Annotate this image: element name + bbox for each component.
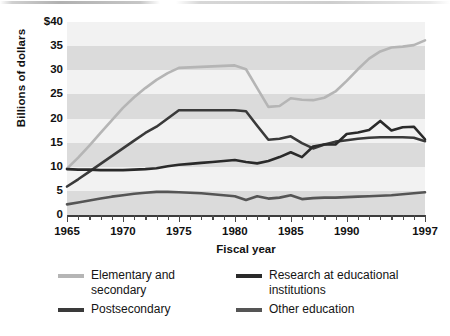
x-axis-tick xyxy=(358,215,359,220)
x-axis-tick xyxy=(134,215,135,220)
y-axis-tick-label: 10 xyxy=(27,161,63,172)
series-line xyxy=(67,110,425,186)
x-axis-tick xyxy=(224,215,225,220)
x-axis-tick-label: 1975 xyxy=(149,225,209,237)
x-axis-tick xyxy=(145,215,146,220)
x-axis-tick xyxy=(414,215,415,220)
legend-item[interactable]: Postsecondary xyxy=(58,302,170,317)
series-line xyxy=(67,121,425,170)
x-axis-ticks xyxy=(67,215,425,223)
plot-lines xyxy=(67,22,425,215)
x-axis-tick xyxy=(313,215,314,220)
y-axis-tick-label: 35 xyxy=(27,40,63,51)
x-axis-tick xyxy=(369,215,370,220)
legend-label: Research at educational institutions xyxy=(269,268,398,297)
y-axis-tick-labels: $4035302520151050 xyxy=(23,22,63,215)
x-axis-tick xyxy=(201,215,202,220)
y-axis-tick-label: 0 xyxy=(27,209,63,220)
x-axis-tick xyxy=(190,215,191,220)
x-axis-tick xyxy=(302,215,303,220)
y-axis-tick-label: 25 xyxy=(27,88,63,99)
legend-line-swatch xyxy=(58,274,84,278)
x-axis-tick-label: 1965 xyxy=(37,225,97,237)
legend-label: Postsecondary xyxy=(91,302,170,317)
x-axis-tick-label: 1985 xyxy=(261,225,321,237)
x-axis-tick xyxy=(268,215,269,220)
legend-line-swatch xyxy=(236,308,262,312)
y-axis-tick-label: $40 xyxy=(27,16,63,27)
x-axis-tick-label: 1980 xyxy=(205,225,265,237)
x-axis-tick xyxy=(212,215,213,220)
legend-line-swatch xyxy=(58,308,84,312)
y-axis-tick-label: 20 xyxy=(27,113,63,124)
legend-item[interactable]: Elementary and secondary xyxy=(58,268,175,297)
scan-artifact-line xyxy=(0,1,450,4)
x-axis-tick xyxy=(123,215,124,222)
x-axis-tick xyxy=(336,215,337,220)
legend-line-swatch xyxy=(236,274,262,278)
chart-figure: Billions of dollars $4035302520151050 19… xyxy=(0,0,450,336)
legend-item[interactable]: Research at educational institutions xyxy=(236,268,398,297)
x-axis-tick xyxy=(291,215,292,222)
x-axis-tick-label: 1997 xyxy=(395,225,450,237)
x-axis-tick xyxy=(347,215,348,222)
y-axis-tick-label: 5 xyxy=(27,185,63,196)
x-axis-tick xyxy=(179,215,180,222)
x-axis-tick xyxy=(78,215,79,220)
legend-label: Elementary and secondary xyxy=(91,268,175,297)
x-axis-tick-label: 1970 xyxy=(93,225,153,237)
chart-legend: Elementary and secondaryResearch at educ… xyxy=(58,268,438,330)
x-axis-tick xyxy=(425,215,426,222)
x-axis-tick xyxy=(391,215,392,220)
plot-area xyxy=(67,22,425,215)
x-axis-tick xyxy=(157,215,158,220)
x-axis-tick xyxy=(280,215,281,220)
legend-item[interactable]: Other education xyxy=(236,302,354,317)
series-line xyxy=(67,192,425,205)
x-axis-tick xyxy=(101,215,102,220)
x-axis-tick xyxy=(403,215,404,220)
x-axis-tick-label: 1990 xyxy=(317,225,377,237)
x-axis-tick xyxy=(89,215,90,220)
x-axis-tick xyxy=(112,215,113,220)
x-axis-tick xyxy=(324,215,325,220)
x-axis-tick xyxy=(257,215,258,220)
x-axis-tick xyxy=(246,215,247,220)
x-axis-tick-labels: 1965197019751980198519901997 xyxy=(0,225,450,241)
x-axis-tick xyxy=(168,215,169,220)
x-axis-tick xyxy=(67,215,68,222)
y-axis-tick-label: 15 xyxy=(27,137,63,148)
x-axis-tick xyxy=(380,215,381,220)
legend-label: Other education xyxy=(269,302,354,317)
x-axis-tick xyxy=(235,215,236,222)
x-axis-title: Fiscal year xyxy=(67,243,425,255)
y-axis-tick-label: 30 xyxy=(27,64,63,75)
